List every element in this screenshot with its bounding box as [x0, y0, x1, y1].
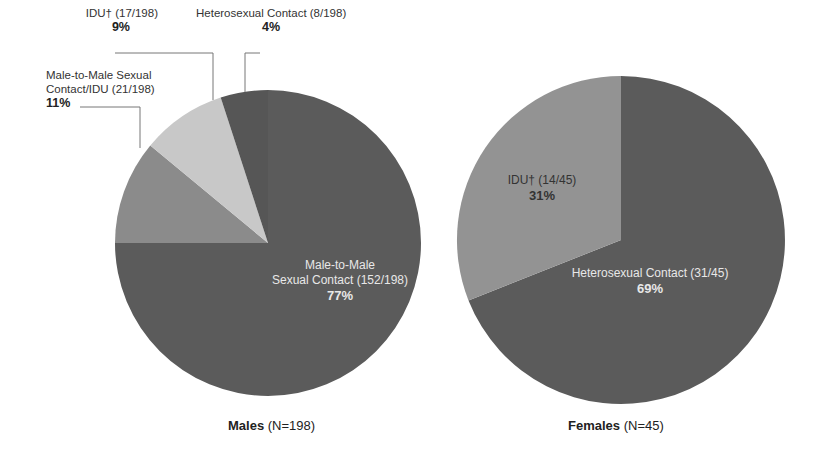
- caption-rest: (N=198): [264, 418, 315, 433]
- males-pie: [115, 90, 421, 396]
- label-text: IDU† (14/45): [497, 173, 587, 188]
- label-percent: 9%: [112, 20, 130, 34]
- label-text: Heterosexual Contact (31/45): [560, 266, 740, 281]
- leader-line-heterosexual: [245, 53, 260, 92]
- label-text: Contact/IDU (21/198): [46, 82, 155, 96]
- label-text: Male-to-Male: [270, 258, 410, 273]
- label-females-idu: IDU† (14/45) 31%: [497, 173, 587, 204]
- label-text: Male-to-Male Sexual: [46, 68, 155, 82]
- label-text: IDU† (17/198): [62, 6, 158, 20]
- females-pie: [457, 76, 785, 404]
- label-percent: 31%: [529, 188, 555, 203]
- label-text: Sexual Contact (152/198): [270, 273, 410, 288]
- caption-females: Females (N=45): [568, 418, 664, 433]
- caption-bold: Males: [228, 418, 264, 433]
- label-males-idu: IDU† (17/198) 9%: [62, 6, 158, 34]
- label-percent: 77%: [327, 288, 353, 303]
- label-females-heterosexual: Heterosexual Contact (31/45) 69%: [560, 266, 740, 297]
- label-percent: 69%: [637, 281, 663, 296]
- caption-males: Males (N=198): [228, 418, 315, 433]
- label-percent: 4%: [262, 20, 280, 34]
- leader-line-msm-idu: [80, 107, 140, 148]
- label-males-heterosexual: Heterosexual Contact (8/198) 4%: [196, 6, 346, 34]
- caption-bold: Females: [568, 418, 620, 433]
- label-percent: 11%: [46, 96, 70, 110]
- label-males-msm: Male-to-Male Sexual Contact (152/198) 77…: [270, 258, 410, 304]
- label-text: Heterosexual Contact (8/198): [196, 6, 346, 20]
- caption-rest: (N=45): [620, 418, 664, 433]
- label-males-msm-idu: Male-to-Male Sexual Contact/IDU (21/198)…: [46, 68, 155, 110]
